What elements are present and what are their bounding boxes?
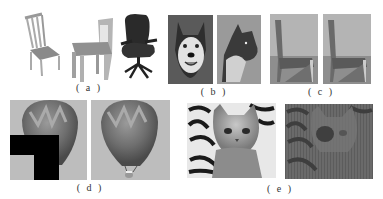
panel-b-dogs — [168, 15, 261, 84]
masked-balloon-image — [10, 100, 87, 180]
panel-a-chairs — [25, 14, 157, 82]
office-chair-image — [121, 14, 157, 78]
wooden-chair-image — [72, 18, 113, 82]
spindle-chair-image — [25, 14, 60, 76]
panel-e-cats — [187, 103, 373, 179]
panel-b-label: ( b ) — [201, 86, 228, 97]
panel-c-chair-photos — [270, 14, 371, 84]
panel-a-label: ( a ) — [76, 82, 102, 93]
chair-photo-left — [270, 14, 318, 84]
restored-balloon-image — [91, 100, 170, 180]
panel-d-label: ( d ) — [77, 182, 104, 193]
figure-canvas — [0, 0, 383, 199]
panel-c-label: ( c ) — [308, 86, 334, 97]
panel-d-balloons — [10, 100, 170, 180]
degraded-kitten-image — [285, 104, 373, 179]
panel-e-label: ( e ) — [267, 183, 293, 194]
kitten-image — [187, 103, 276, 178]
chair-photo-right — [323, 14, 371, 84]
